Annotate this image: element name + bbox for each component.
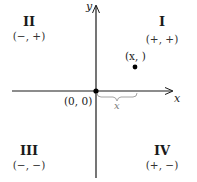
coordinate-plane-diagram: y x (0, 0) (x, ) x I (+, +) II (−, +) II… xyxy=(0,0,197,182)
quadrant-ii-numeral: II xyxy=(4,14,54,29)
point-dot xyxy=(133,65,138,70)
quadrant-iv-signs: (+, −) xyxy=(137,159,187,171)
quadrant-i-numeral: I xyxy=(137,14,187,29)
x-axis-label: x xyxy=(174,92,180,105)
quadrant-i-signs: (+, +) xyxy=(137,33,187,45)
origin-dot xyxy=(93,88,98,93)
quadrant-ii-signs: (−, +) xyxy=(4,30,54,42)
quadrant-iii-numeral: III xyxy=(4,143,54,158)
origin-label: (0, 0) xyxy=(64,95,92,107)
y-axis-label: y xyxy=(86,0,92,13)
point-label: (x, ) xyxy=(125,50,146,62)
quadrant-iii-signs: (−, −) xyxy=(4,159,54,171)
quadrant-iv-numeral: IV xyxy=(137,143,187,158)
brace-label: x xyxy=(114,100,120,111)
